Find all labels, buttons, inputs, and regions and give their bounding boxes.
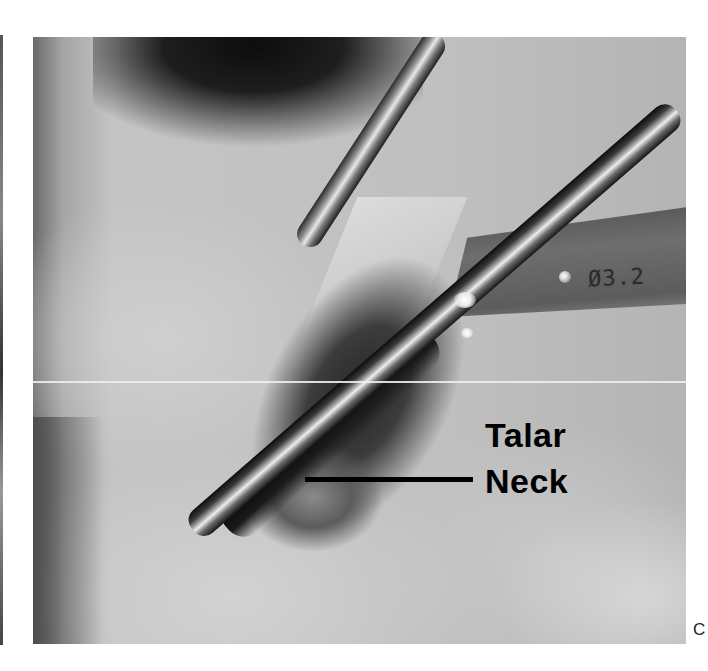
adjacent-panel-edge	[0, 35, 3, 645]
specular-highlight	[461, 328, 473, 338]
annotation-label-talar: Talar	[485, 418, 566, 452]
scan-artifact-line	[33, 381, 686, 383]
left-shadow-region	[33, 417, 103, 644]
guide-hole-icon	[559, 271, 571, 283]
panel-letter: C	[693, 620, 708, 640]
instrument-size-etching: Ø3.2	[587, 264, 645, 292]
annotation-pointer-line	[305, 477, 473, 482]
annotation-label-neck: Neck	[485, 464, 568, 498]
specular-highlight	[454, 292, 476, 308]
surgical-photo: Ø3.2 Talar Neck	[33, 37, 686, 644]
